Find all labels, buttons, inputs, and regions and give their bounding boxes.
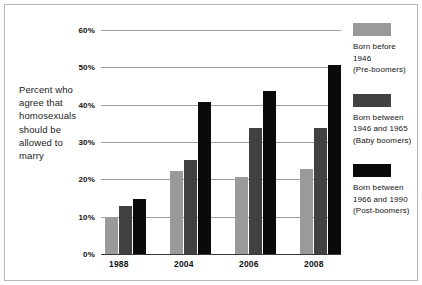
legend-entry: Born before1946(Pre-boomers) [353,23,419,76]
y-axis-tick-label: 40% [78,100,95,109]
bar [170,171,183,255]
bar [314,128,327,255]
bar-group: 2004 [170,31,211,255]
legend-swatch [353,23,391,36]
y-axis-tick-label: 50% [78,63,95,72]
bar-group: 1988 [105,31,146,255]
y-axis-tick-label: 10% [78,212,95,221]
bar [328,65,341,255]
legend-swatch [353,164,391,177]
bar [198,102,211,255]
bar [184,160,197,255]
bar [133,199,146,255]
chart-frame: Percent whoagree thathomosexualsshould b… [4,4,418,281]
chart-legend: Born before1946(Pre-boomers)Born between… [353,23,419,235]
legend-label-line: (Baby boomers) [353,135,419,147]
y-axis-tick-label: 0% [83,250,95,259]
legend-label-line: 1946 [353,53,419,65]
y-axis-tick-label: 30% [78,138,95,147]
bar-group-bars [105,31,147,255]
legend-label: Born before1946(Pre-boomers) [353,41,419,76]
bar-group: 2006 [235,31,276,255]
x-axis-tick-label: 2008 [304,259,324,269]
bar-group-bars [300,31,342,255]
bar-group-bars [170,31,212,255]
y-axis-caption-line: should be [19,123,93,136]
x-axis-tick-label: 1988 [109,259,129,269]
legend-label-line: (Pre-boomers) [353,64,419,76]
legend-label: Born between1966 and 1990(Post-boomers) [353,182,419,217]
bar-group-bars [235,31,277,255]
legend-label: Born between1946 and 1965(Baby boomers) [353,112,419,147]
y-axis-caption: Percent whoagree thathomosexualsshould b… [19,83,93,162]
legend-label-line: Born between [353,182,419,194]
legend-entry: Born between1966 and 1990(Post-boomers) [353,164,419,217]
y-axis-tick-label: 20% [78,175,95,184]
bar [300,169,313,255]
y-axis-caption-line: Percent who [19,83,93,96]
x-axis-tick-label: 2006 [239,259,259,269]
y-axis-tick-label: 60% [78,26,95,35]
legend-label-line: 1966 and 1990 [353,194,419,206]
plot-area: 0%10%20%30%40%50%60% 1988200420062008 [101,31,341,255]
bar [249,128,262,255]
legend-label-line: Born between [353,112,419,124]
legend-label-line: 1946 and 1965 [353,123,419,135]
bar [263,91,276,255]
bar [235,177,248,255]
y-axis-caption-line: marry [19,149,93,162]
x-axis-tick-label: 2004 [174,259,194,269]
legend-swatch [353,94,391,107]
legend-entry: Born between1946 and 1965(Baby boomers) [353,94,419,147]
chart-figure: Percent whoagree thathomosexualsshould b… [0,0,422,285]
y-axis-caption-line: homosexuals [19,109,93,122]
x-axis-line [101,254,341,255]
legend-label-line: Born before [353,41,419,53]
bar [105,218,118,255]
bar [119,206,132,255]
bar-group: 2008 [300,31,341,255]
legend-label-line: (Post-boomers) [353,205,419,217]
